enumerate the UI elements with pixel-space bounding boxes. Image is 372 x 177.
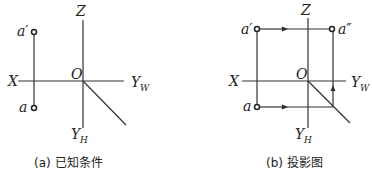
label-a-prime: a′: [17, 23, 29, 39]
label-yw-subscript: W: [140, 83, 150, 93]
label-a: a: [19, 99, 27, 115]
caption-a: (a) 已知条件: [34, 156, 103, 170]
projection-diagrams: Z a′ X O Y W a Y H (a) 已知条件 Z a′ a″ X O …: [0, 0, 372, 177]
label-x: X: [7, 73, 19, 89]
point-a-prime: [255, 27, 260, 32]
point-a-double-prime: [330, 27, 335, 32]
label-z: Z: [300, 2, 311, 18]
label-z: Z: [75, 3, 86, 19]
caption-b: (b) 投影图: [266, 155, 323, 170]
label-a: a: [243, 98, 251, 114]
label-origin: O: [296, 66, 308, 82]
figure-b-projection: Z a′ a″ X O Y W a Y H (b) 投影图: [228, 2, 370, 170]
point-a-prime: [32, 30, 37, 35]
label-yw-subscript: W: [360, 83, 370, 93]
label-yh-subscript: H: [79, 135, 88, 145]
label-a-double-prime: a″: [338, 21, 352, 37]
diagonal-45-line: [308, 81, 350, 123]
label-yh-subscript: H: [303, 135, 312, 145]
label-origin: O: [71, 66, 83, 82]
point-a: [32, 106, 37, 111]
diagonal-45-line: [83, 81, 126, 125]
point-a: [255, 105, 260, 110]
label-x: X: [228, 73, 240, 89]
figure-a-known-conditions: Z a′ X O Y W a Y H (a) 已知条件: [7, 3, 150, 170]
label-a-prime: a′: [241, 21, 253, 37]
